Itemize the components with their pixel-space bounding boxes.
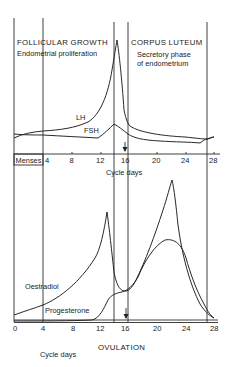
upper-tick-24: 24 (181, 156, 189, 165)
follicular-growth-title: FOLLICULAR GROWTH (17, 38, 108, 47)
upper-tick-28: 28 (209, 156, 217, 165)
lh-label: LH (76, 113, 85, 122)
upper-tick-4: 4 (45, 156, 49, 165)
upper-tick-20: 20 (152, 156, 160, 165)
lower-tick-4: 4 (41, 324, 45, 333)
lower-tick-16: 16 (121, 324, 129, 333)
progesterone-label: Progesterone (45, 306, 89, 315)
menstrual-cycle-diagram: FOLLICULAR GROWTH Endometrial proliferat… (0, 0, 236, 367)
upper-tick-16: 16 (121, 156, 129, 165)
menses-label: Menses (16, 156, 42, 165)
corpus-luteum-title: CORPUS LUTEUM (131, 38, 202, 47)
oestradiol-label: Oestradiol (25, 282, 59, 291)
lower-tick-28: 28 (210, 324, 218, 333)
lower-tick-0: 0 (13, 324, 17, 333)
lower-tick-12: 12 (96, 324, 104, 333)
lower-tick-20: 20 (153, 324, 161, 333)
upper-tick-8: 8 (70, 156, 74, 165)
fsh-label: FSH (84, 126, 99, 135)
lower-axis-title: Cycle days (40, 350, 76, 359)
of-endometrium-label: of endometrium (137, 59, 188, 68)
upper-tick-12: 12 (96, 156, 104, 165)
lower-tick-8: 8 (71, 324, 75, 333)
ovulation-label: OVULATION (98, 343, 145, 352)
endometrial-proliferation-label: Endometrial proliferation (17, 49, 97, 58)
ovulation-arrow-upper-icon (123, 147, 128, 152)
upper-axis-title: Cycle days (106, 168, 142, 177)
lower-tick-24: 24 (182, 324, 190, 333)
secretory-phase-label: Secretory phase (137, 50, 191, 59)
